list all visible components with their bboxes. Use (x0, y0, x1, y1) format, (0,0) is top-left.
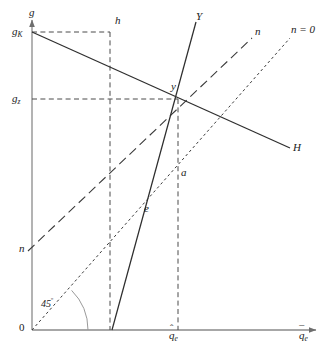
x-tick-qe-sub: e (175, 334, 178, 343)
y-tick-gK-base: g (12, 25, 18, 37)
angle-arc-45 (72, 290, 88, 330)
y-tick-gK: gK (12, 26, 23, 37)
curve-H-line (32, 32, 290, 148)
curve-label-n-start: n (19, 243, 25, 254)
y-tick-gK-sub: K (18, 30, 23, 39)
curve-n-line (28, 38, 252, 251)
axis-group (32, 20, 316, 330)
point-label-y: y (171, 81, 176, 92)
y-axis-label: g (29, 7, 35, 18)
angle-label-45: 45º (41, 298, 53, 309)
curve-label-n-equals-zero: n = 0 (291, 24, 315, 35)
point-label-a: a (181, 167, 187, 178)
angle-arc-group (72, 290, 88, 330)
y-tick-gz: gz (12, 93, 20, 104)
curve-label-Y: Y (196, 11, 202, 22)
curve-n0-line (32, 38, 290, 330)
origin-label: 0 (19, 322, 25, 333)
economics-diagram: g 0 ¯qe gK gz ˆqe 45º H Y n n n = 0 h y … (0, 0, 336, 352)
curve-label-n-end: n (255, 26, 261, 37)
point-label-h: h (115, 15, 121, 26)
guide-line-group (32, 32, 178, 330)
point-label-e: e (144, 203, 149, 214)
x-tick-qe-accent: ˆ (170, 324, 173, 334)
x-axis-label-accent: ¯ (299, 325, 304, 335)
y-tick-gz-base: g (12, 92, 18, 104)
angle-label-value: 45 (41, 298, 51, 309)
y-tick-gz-sub: z (18, 97, 21, 106)
x-axis-label: ¯qe (299, 330, 308, 341)
curve-group (28, 22, 290, 330)
curve-label-H: H (293, 142, 301, 153)
x-axis-label-sub: e (305, 334, 308, 343)
angle-degree-symbol: º (51, 297, 53, 305)
x-tick-qe-hat: ˆqe (169, 330, 178, 341)
